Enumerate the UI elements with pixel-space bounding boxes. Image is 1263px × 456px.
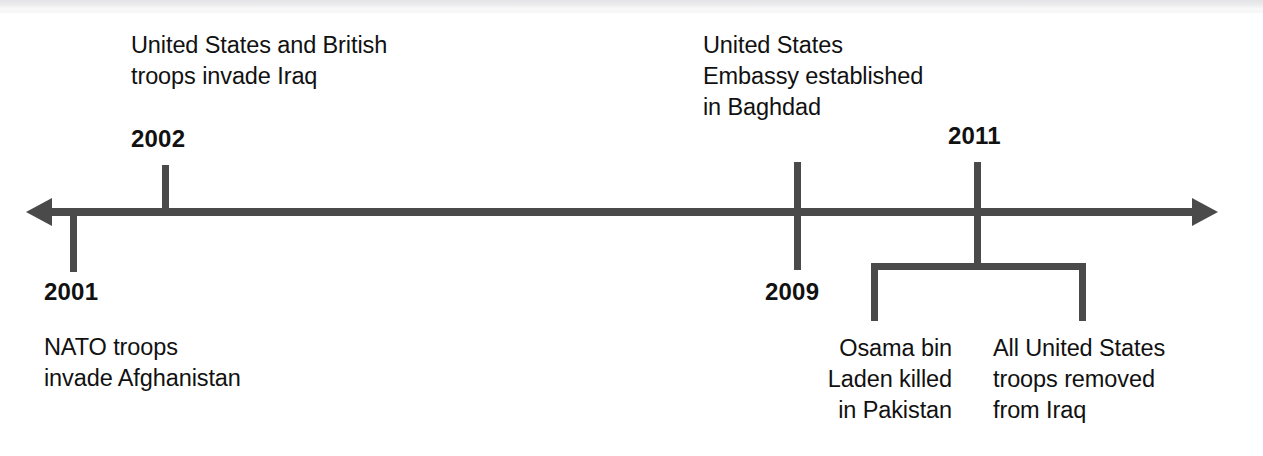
timeline-axis	[46, 208, 1206, 216]
arrow-right-icon	[1192, 198, 1218, 226]
event-2009-description: United States Embassy established in Bag…	[703, 30, 1033, 123]
tick-2002	[162, 165, 169, 212]
tick-2001	[70, 212, 77, 272]
tick-2009	[794, 162, 801, 270]
event-2011-description-left: Osama bin Laden killed in Pakistan	[730, 333, 952, 426]
timeline-figure: United States and British troops invade …	[0, 0, 1263, 456]
tick-2011	[974, 162, 981, 268]
event-2001-year: 2001	[44, 278, 184, 306]
arrow-left-icon	[26, 198, 52, 226]
event-2011-description-right: All United States troops removed from Ir…	[993, 333, 1253, 426]
event-2011-year: 2011	[948, 122, 1068, 150]
page-scan-band	[0, 0, 1263, 9]
page-scan-band-lower	[0, 9, 1263, 13]
event-2009-year: 2009	[765, 278, 885, 306]
event-2002-year: 2002	[131, 125, 251, 153]
bracket-2011-horizontal	[871, 263, 1086, 270]
bracket-2011-leg-right	[1079, 263, 1086, 321]
event-2001-description: NATO troops invade Afghanistan	[44, 332, 384, 394]
event-2002-description: United States and British troops invade …	[131, 30, 561, 92]
